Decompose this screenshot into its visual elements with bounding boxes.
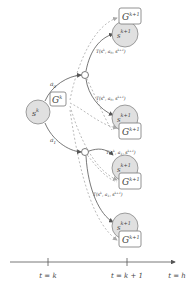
tick-label-h: t = h bbox=[168, 272, 186, 280]
leaf-node-2: sk+1 Gk+1 bbox=[112, 105, 141, 139]
leaf-node-4: sk+1 Gk+1 bbox=[112, 213, 141, 247]
tick-label-k: t = k bbox=[39, 272, 56, 280]
timeline: t = k t = k + 1 t = h bbox=[10, 258, 186, 280]
leaf-node-1: sk+1 Gk+1 bbox=[112, 8, 141, 47]
transition-label-3: T(sk, a1, sk+1) bbox=[106, 149, 136, 156]
leaf-node-3: sk+1 Gk+1 bbox=[112, 155, 141, 189]
transition-label-2: T(sk, a0, sk+1) bbox=[96, 95, 126, 102]
tick-label-k1: t = k + 1 bbox=[111, 272, 143, 280]
transition-label-1: T(sk, a0, sk+1) bbox=[96, 48, 126, 55]
chance-node-a1 bbox=[82, 149, 89, 156]
root-node: sk Gk bbox=[26, 92, 66, 124]
decision-tree-diagram: sk Gk a0 a1 T(sk, a0, sk+1) T(sk, a0, sk… bbox=[0, 0, 195, 293]
action-label-a0: a0 bbox=[50, 80, 57, 89]
chance-node-a0 bbox=[82, 72, 89, 79]
action-label-a1: a1 bbox=[50, 136, 56, 145]
transition-label-4: T(sk, a1, sk+1) bbox=[93, 191, 123, 198]
